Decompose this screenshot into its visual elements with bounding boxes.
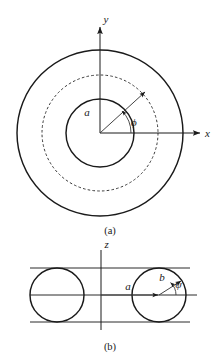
phi-angle-label: ϕ — [131, 116, 137, 128]
radius-a-vector — [100, 92, 145, 133]
phi-angle-arc — [122, 111, 131, 133]
torus-geometry-figure: y x a ϕ (a) z — [0, 0, 220, 360]
distance-a-label: a — [125, 280, 131, 292]
figure-root: y x a ϕ (a) z — [0, 0, 220, 360]
panel-a-group: y x a ϕ (a) — [17, 13, 210, 237]
y-axis-label: y — [103, 13, 109, 25]
panel-b-group: z a b ψ (b) — [30, 238, 197, 353]
caption-b: (b) — [104, 341, 117, 353]
radius-a-label: a — [84, 106, 90, 118]
radius-b-label: b — [159, 271, 165, 283]
caption-a: (a) — [104, 225, 116, 237]
psi-angle-label: ψ — [175, 278, 182, 290]
z-axis-label: z — [104, 238, 110, 250]
x-axis-label: x — [204, 127, 210, 139]
